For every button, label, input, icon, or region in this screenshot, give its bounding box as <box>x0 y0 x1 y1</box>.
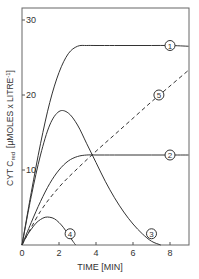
y-axis-label: CYT Cred[µMOLES x LITRE-1] <box>5 70 16 186</box>
series-3-label: 3 <box>149 230 154 239</box>
x-tick-label: 0 <box>19 248 24 258</box>
series-4-label: 4 <box>68 230 73 239</box>
x-axis-label: TIME [MIN] <box>77 262 123 272</box>
series-group <box>22 45 189 245</box>
y-axis-label-main: CYT C <box>5 161 15 186</box>
x-axis-ticks: 02468 <box>19 242 172 258</box>
y-axis-label-sub: red <box>10 152 16 161</box>
y-tick-label: 30 <box>26 15 36 25</box>
chart: 102030 02468 12345 TIME [MIN] CYT Cred[µ… <box>0 0 199 279</box>
y-axis-ticks: 102030 <box>22 15 36 175</box>
series-5-label: 5 <box>157 91 162 100</box>
x-tick-label: 8 <box>167 248 172 258</box>
y-axis-label-units: [µMOLES x LITRE <box>5 77 15 147</box>
series-1-line <box>22 45 189 245</box>
x-tick-label: 6 <box>130 248 135 258</box>
plot-frame <box>22 8 189 245</box>
series-1-label: 1 <box>168 42 173 51</box>
series-2-line <box>22 155 189 245</box>
curve-labels: 12345 <box>65 41 175 239</box>
series-2-label: 2 <box>168 151 173 160</box>
y-tick-label: 20 <box>26 90 36 100</box>
y-axis-label-close: ] <box>5 70 15 72</box>
x-tick-label: 4 <box>93 248 98 258</box>
x-tick-label: 2 <box>56 248 61 258</box>
